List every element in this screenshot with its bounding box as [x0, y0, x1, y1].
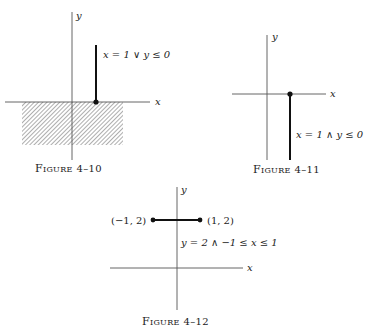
right-endpoint-dot	[198, 218, 203, 223]
condition-label: y = 2 ∧ −1 ≤ x ≤ 1	[180, 237, 278, 248]
figure-caption: FIGURE4–10	[35, 162, 102, 175]
figure-caption: FIGURE4–12	[142, 315, 209, 328]
y-axis-label: y	[180, 184, 187, 195]
condition-label: x = 1 ∧ y ≤ 0	[296, 129, 364, 140]
y-axis-label: y	[271, 31, 278, 42]
endpoint-dot	[93, 99, 98, 104]
left-endpoint-label: (−1, 2)	[111, 215, 146, 226]
figure-4-11: y x x = 1 ∧ y ≤ 0 FIGURE4–11	[232, 31, 364, 176]
x-axis-label: x	[155, 96, 161, 107]
x-axis-label: x	[247, 262, 253, 273]
right-endpoint-label: (1, 2)	[207, 215, 234, 226]
y-axis-label: y	[75, 10, 82, 21]
figure-4-12: y x (−1, 2) (1, 2) y = 2 ∧ −1 ≤ x ≤ 1 FI…	[110, 184, 278, 328]
endpoint-dot	[287, 91, 292, 96]
condition-label: x = 1 ∨ y ≤ 0	[103, 49, 171, 60]
x-axis-label: x	[330, 88, 336, 99]
left-endpoint-dot	[151, 218, 156, 223]
figure-4-10: y x x = 1 ∨ y ≤ 0 FIGURE4–10	[5, 10, 171, 175]
figure-caption: FIGURE4–11	[253, 163, 320, 176]
figures-canvas: y x x = 1 ∨ y ≤ 0 FIGURE4–10 y x x = 1 ∧…	[0, 0, 381, 328]
shaded-lower-half-plane	[22, 102, 123, 145]
